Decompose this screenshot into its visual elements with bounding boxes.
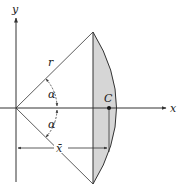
x-axis-label: x: [170, 102, 177, 115]
segment-centroid-diagram: y x r α α C x̄: [0, 0, 180, 186]
angle-label-lower: α: [48, 118, 56, 131]
y-axis-label: y: [11, 3, 19, 16]
radius-label: r: [48, 56, 54, 69]
centroid-distance-label: x̄: [56, 142, 63, 155]
angle-label-upper: α: [48, 88, 56, 101]
centroid-label: C: [104, 92, 113, 105]
